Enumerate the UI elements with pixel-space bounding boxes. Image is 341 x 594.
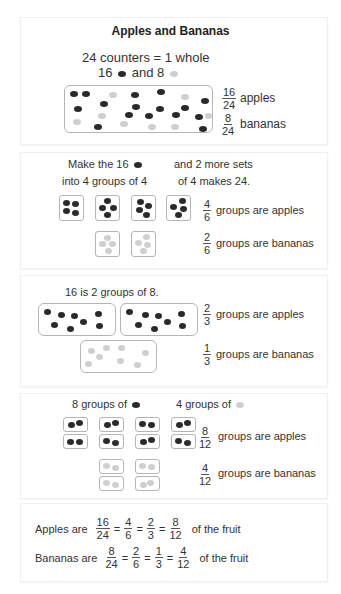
fraction-numerator: 16 [222,86,236,99]
apple-counter [68,422,75,428]
banana-counter [109,92,117,98]
apple-counter [110,205,117,211]
bananas-label: bananas [240,117,286,131]
apple-group-4 [166,195,191,221]
banana-counter [139,463,146,469]
apple-counter [63,200,70,206]
fraction-denominator: 12 [177,558,189,570]
fraction-numerator: 4 [201,462,209,475]
banana-counter [147,480,154,486]
banana-counter [117,358,124,364]
apple-pair [171,434,196,449]
banana-counter [85,361,92,367]
apple-counter [67,326,74,332]
dark-counter-icon [132,402,140,408]
fraction-numerator: 4 [124,516,132,529]
fraction-numerator: 4 [179,545,187,558]
apple-pair [63,417,88,432]
banana-counter [142,350,149,356]
apples-count: 16 [98,65,112,80]
apple-counter [145,203,152,209]
apple-counter [157,89,165,95]
apple-counter [143,212,150,218]
apple-counter [180,206,187,212]
banana-counter [120,121,128,127]
banana-pair [135,459,160,474]
dark-counter-icon [118,71,126,77]
apple-counter [140,439,147,445]
apple-counter [184,420,191,426]
apple-counter [176,422,183,428]
apple-counter [175,438,182,444]
apple-counter [132,104,140,110]
banana-counter [103,345,110,351]
apple-counter [51,322,58,328]
banana-counter [105,248,112,254]
apple-counter [179,323,186,329]
apple-counter [112,420,119,426]
apples-fraction: 16 24 [222,86,236,111]
apple-counter [71,313,78,319]
banana-counter [181,94,189,100]
fraction-denominator: 3 [156,558,162,570]
fraction-numerator: 2 [147,516,155,529]
banana-counter [104,235,111,241]
apple-counter [103,438,110,444]
apple-pair [99,434,124,449]
apple-pair [63,434,88,449]
apple-counter [156,106,164,112]
apple-counter [155,313,162,319]
make-16-text: Make the 16 [68,158,144,170]
banana-counter [103,463,110,469]
apple-counter [94,124,102,130]
light-counter-icon [170,71,178,77]
makes-24-text: of 4 makes 24. [178,175,250,187]
apple-group-4 [131,195,156,221]
banana-counter [112,482,119,488]
apple-counter [82,91,90,97]
two-thirds-fraction: 2 3 [203,302,211,327]
panel-summary [20,503,328,582]
one-third-fraction: 1 3 [203,342,211,367]
apple-counter [112,440,119,446]
fraction-numerator: 8 [107,545,115,558]
fraction-denominator: 12 [199,475,211,487]
fraction-denominator: 3 [148,529,154,541]
banana-counter [171,124,179,130]
apple-counter [199,126,207,132]
groups-apples-label: groups are apples [218,430,306,442]
banana-counter [134,362,141,368]
banana-counter [112,465,119,471]
banana-counter [109,241,116,247]
apple-counter [181,105,189,111]
apple-counter [136,207,143,213]
groups-bananas-label: groups are bananas [216,348,314,360]
dark-counter-icon [134,162,142,168]
banana-counter [118,345,125,351]
banana-counter [103,480,110,486]
fraction-numerator: 8 [224,112,232,125]
four-groups-text: 4 groups of [176,398,246,410]
apple-counter [179,198,186,204]
banana-counter [144,242,151,248]
apple-counter [175,212,182,218]
figure-title: Apples and Bananas [0,24,341,38]
two-sixths-fraction: 2 6 [203,231,211,256]
fraction-numerator: 1 [155,545,163,558]
apple-pair [135,417,160,432]
banana-group-4 [131,231,156,257]
apple-counter [72,210,79,216]
fraction-denominator: 6 [204,211,210,223]
banana-pair [99,476,124,491]
eight-groups-text: 8 groups of [72,398,142,410]
counts-line: 16 and 8 [98,65,180,80]
apple-counter [184,440,191,446]
apples-equation: Apples are 1624 = 46 = 23 = 812 of the f… [35,516,241,541]
fraction-numerator: 4 [203,198,211,211]
apple-counter [164,319,171,325]
apple-counter [125,112,133,118]
fraction-numerator: 16 [96,516,110,529]
apple-counter [135,322,142,328]
apple-counter [142,312,149,318]
apple-counter [63,208,70,214]
